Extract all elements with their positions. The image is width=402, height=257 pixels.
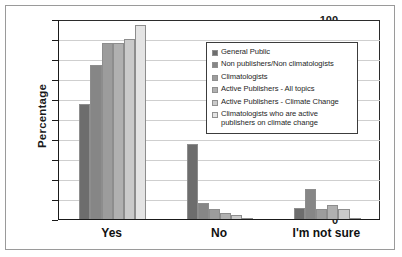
bar <box>220 213 231 219</box>
legend-swatch-icon <box>212 50 218 56</box>
y-axis-tick-mark <box>52 220 58 221</box>
bar <box>350 218 361 219</box>
legend-item-label: Non publishers/Non climatologists <box>221 60 334 69</box>
legend-item-label: Active Publishers - Climate Change <box>221 98 339 107</box>
x-axis-tick-label: I'm not sure <box>293 226 361 240</box>
legend-item: Non publishers/Non climatologists <box>212 60 352 69</box>
legend-item: Active Publishers - Climate Change <box>212 98 352 107</box>
bar <box>113 43 124 219</box>
bar <box>135 25 146 219</box>
x-axis-tick-label: Yes <box>101 226 122 240</box>
bar <box>102 43 113 219</box>
bar-group <box>79 20 146 219</box>
legend-item-label: Active Publishers - All topics <box>221 85 314 94</box>
legend-item: Active Publishers - All topics <box>212 85 352 94</box>
legend-swatch-icon <box>212 62 218 68</box>
bar <box>294 208 305 219</box>
bar <box>305 189 316 219</box>
chart-legend: General PublicNon publishers/Non climato… <box>206 42 358 134</box>
bar <box>242 218 253 219</box>
bar <box>187 144 198 219</box>
bar <box>198 203 209 219</box>
legend-swatch-icon <box>212 100 218 106</box>
bar <box>327 205 338 219</box>
bar <box>338 209 349 219</box>
figure-frame: Percentage 0102030405060708090100 YesNoI… <box>5 5 395 250</box>
legend-item-label: Climatologists who are active publishers… <box>221 110 352 128</box>
legend-swatch-icon <box>212 75 218 81</box>
bar <box>79 104 90 219</box>
legend-item: Climatologists <box>212 73 352 82</box>
legend-item-label: Climatologists <box>221 73 268 82</box>
bar <box>124 39 135 219</box>
bar <box>316 209 327 219</box>
y-axis-title: Percentage <box>36 56 48 176</box>
bar <box>231 215 242 219</box>
bar <box>209 209 220 219</box>
x-axis-tick-label: No <box>211 226 227 240</box>
legend-item: General Public <box>212 48 352 57</box>
bar <box>90 65 101 219</box>
legend-swatch-icon <box>212 112 218 118</box>
legend-swatch-icon <box>212 87 218 93</box>
legend-item: Climatologists who are active publishers… <box>212 110 352 128</box>
legend-item-label: General Public <box>221 48 270 57</box>
